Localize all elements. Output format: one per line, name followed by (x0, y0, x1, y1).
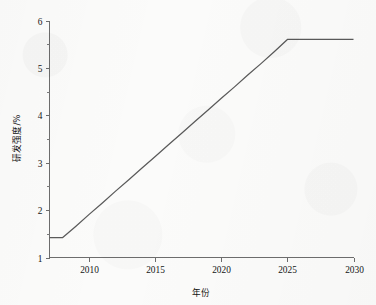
y-tick-label: 5 (38, 64, 43, 74)
x-tick-label: 2025 (278, 265, 297, 275)
x-tick-label: 2015 (146, 265, 165, 275)
x-axis-title: 年份 (192, 287, 210, 298)
x-tick-label: 2020 (212, 265, 231, 275)
x-axis-major-ticks (90, 258, 355, 262)
y-tick-label: 3 (38, 159, 43, 169)
chart-container: 123456 20102015202020252030 年份 研发强度/% (0, 0, 376, 305)
data-series-line (50, 39, 354, 237)
y-tick-label: 2 (38, 206, 43, 216)
y-tick-label: 6 (38, 17, 43, 27)
y-tick-label: 4 (38, 111, 43, 121)
y-axis-tick-labels: 123456 (38, 17, 43, 264)
x-tick-label: 2010 (80, 265, 99, 275)
x-tick-label: 2030 (345, 265, 364, 275)
chart-axes (50, 21, 354, 258)
line-chart: 123456 20102015202020252030 年份 研发强度/% (0, 0, 376, 305)
x-axis-tick-labels: 20102015202020252030 (80, 265, 364, 275)
y-axis-title: 研发强度/% (11, 114, 22, 161)
y-tick-label: 1 (38, 254, 43, 264)
